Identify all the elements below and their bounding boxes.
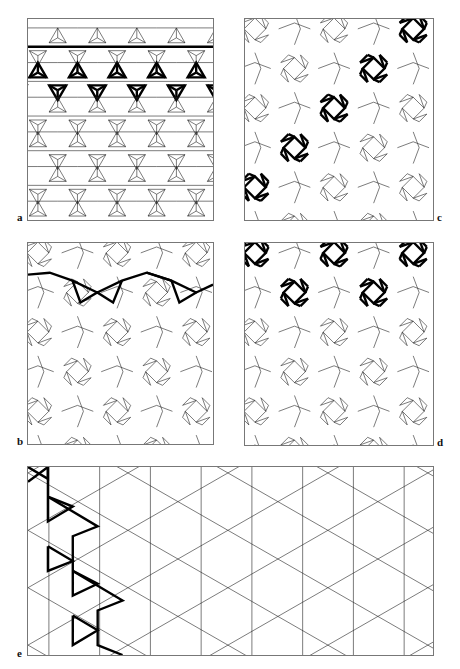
cross-arm [190, 318, 196, 321]
cross-arm [77, 303, 83, 306]
cross-arm [281, 69, 284, 75]
cross-arm [255, 422, 261, 425]
cross-arm [281, 293, 284, 299]
lattice-arc [77, 395, 83, 427]
cross-arm [255, 264, 261, 267]
cross-arm [71, 437, 77, 440]
cross-arm [38, 343, 44, 346]
cross-arm [249, 94, 255, 97]
cross-arm [266, 247, 269, 253]
lattice-arc [279, 102, 311, 108]
cross-arm [328, 398, 334, 401]
cross-motif [323, 176, 345, 198]
cross-arm [103, 411, 106, 417]
lattice-arc [413, 132, 419, 164]
lattice-arc [157, 395, 163, 427]
cross-arm [117, 343, 123, 346]
lattice-arc [397, 287, 429, 293]
lattice-arc [413, 277, 419, 309]
cross-arm [249, 398, 255, 401]
cross-arm [255, 40, 261, 43]
lattice-arc [28, 287, 54, 293]
panel-label-a: a [17, 212, 23, 223]
star-spoke [207, 38, 213, 43]
cross-arm [167, 366, 170, 372]
cross-motif [402, 97, 424, 119]
cross-arm [413, 343, 419, 346]
cross-arm [143, 372, 146, 378]
cross-motif [245, 400, 266, 422]
cross-arm [320, 108, 323, 114]
lattice-arc [255, 277, 261, 309]
cross-arm [255, 198, 261, 201]
cross-arm [249, 319, 255, 322]
lattice-arc [180, 366, 212, 372]
cross-motif [28, 400, 49, 422]
cross-arm [368, 134, 374, 137]
lattice-arc [255, 356, 261, 388]
star-spoke [207, 155, 213, 160]
lattice-arc [318, 63, 350, 69]
cross-arm [88, 366, 91, 372]
star-spoke [207, 107, 213, 112]
cross-arm [288, 213, 294, 216]
diagonal-line [28, 467, 433, 588]
cross-arm [413, 264, 419, 267]
diagonal-line [28, 588, 433, 655]
lattice-arc [294, 171, 300, 203]
cross-arm [368, 358, 374, 361]
cross-arm [385, 366, 388, 372]
cross-arm [345, 181, 348, 187]
cross-arm [413, 422, 419, 425]
cross-arm [340, 19, 345, 29]
cross-arm [77, 383, 83, 386]
diagonal-line [28, 467, 433, 473]
lattice-arc [28, 366, 54, 372]
cross-motif [146, 282, 168, 304]
cross-arm [281, 148, 284, 154]
cross-arm [151, 279, 157, 282]
cross-arm [245, 398, 249, 406]
lattice-arc [77, 316, 83, 348]
cross-arm [266, 326, 269, 332]
lattice-arc [374, 92, 380, 124]
cross-arm [183, 253, 186, 259]
cross-arm [190, 398, 196, 401]
cross-arm [360, 148, 363, 154]
cross-arm [49, 247, 52, 253]
cross-arm [117, 422, 123, 425]
lattice-arc [374, 395, 380, 427]
cross-arm [320, 187, 323, 193]
cross-arm [44, 243, 49, 253]
cross-arm [334, 198, 340, 201]
highlight-path [28, 467, 73, 521]
cross-arm [374, 303, 380, 306]
lattice-arc [374, 316, 380, 348]
panel-label-d: d [437, 437, 443, 448]
cross-arm [294, 79, 300, 82]
cross-arm [28, 321, 38, 326]
cross-arm [245, 400, 255, 405]
lattice-arc [358, 405, 390, 411]
lattice-arc [62, 326, 94, 332]
cross-arm [281, 372, 284, 378]
cross-arm [64, 293, 67, 299]
cross-arm [345, 326, 348, 332]
lattice-arc [318, 142, 350, 148]
cross-arm [28, 318, 32, 326]
cross-motif [106, 321, 128, 343]
cross-arm [400, 332, 403, 338]
cross-arm [151, 358, 157, 361]
cross-arm [167, 287, 170, 293]
lattice-arc [413, 356, 419, 388]
lattice-arc [294, 243, 300, 269]
lattice-arc [157, 243, 163, 269]
cross-arm [407, 94, 413, 97]
cross-arm [128, 247, 131, 253]
lattice-arc [413, 53, 419, 85]
cross-arm [294, 159, 300, 162]
cross-arm [157, 383, 163, 386]
lattice-arc [358, 326, 390, 332]
lattice-arc [245, 63, 271, 69]
cross-motif [284, 361, 306, 383]
